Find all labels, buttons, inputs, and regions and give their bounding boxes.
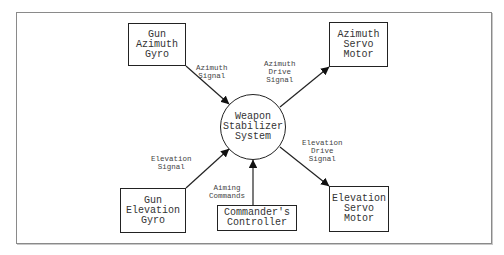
edge-label-line: Drive <box>302 147 343 155</box>
node-weapon-stabilizer-system: WeaponStabilizerSystem <box>220 94 286 160</box>
edge-label-line: Aiming <box>209 184 245 192</box>
node-azimuth-servo-motor: AzimuthServoMotor <box>329 22 388 67</box>
edge-label-line: Drive <box>264 68 296 76</box>
edge-label-azimuth-drive-signal: AzimuthDriveSignal <box>264 60 296 84</box>
edge-label-elevation-drive-signal: ElevationDriveSignal <box>302 139 343 163</box>
node-elevation-servo-motor: ElevationServoMotor <box>329 186 389 232</box>
node-label-line: Gun <box>144 196 162 206</box>
node-label-line: Elevation <box>126 206 180 216</box>
node-label-line: Gyro <box>145 50 169 60</box>
edge-label-line: Signal <box>264 76 296 84</box>
edge-label-line: Elevation <box>151 155 192 163</box>
node-commanders-controller: Commander'sController <box>217 205 297 231</box>
node-label-line: Gun <box>148 30 166 40</box>
edge-label-line: Azimuth <box>196 64 228 72</box>
diagram-canvas: GunAzimuthGyroAzimuthServoMotorGunElevat… <box>0 0 504 255</box>
center-label-line: System <box>235 132 271 142</box>
node-label-line: Motor <box>343 50 373 60</box>
edge-label-line: Signal <box>151 163 192 171</box>
edge-elevation-signal <box>186 149 229 188</box>
node-label-line: Servo <box>343 40 373 50</box>
edge-label-aiming-commands: AimingCommands <box>209 184 245 200</box>
node-label-line: Azimuth <box>337 30 379 40</box>
edge-label-elevation-signal: ElevationSignal <box>151 155 192 171</box>
node-gun-azimuth-gyro: GunAzimuthGyro <box>128 23 186 66</box>
edge-label-azimuth-signal: AzimuthSignal <box>196 64 228 80</box>
node-label-line: Azimuth <box>136 40 178 50</box>
edge-label-line: Signal <box>196 72 228 80</box>
node-label-line: Motor <box>344 214 374 224</box>
node-label-line: Gyro <box>141 216 165 226</box>
edge-label-line: Signal <box>302 155 343 163</box>
edge-label-line: Azimuth <box>264 60 296 68</box>
edge-label-line: Elevation <box>302 139 343 147</box>
node-label-line: Controller <box>227 218 287 228</box>
edge-label-line: Commands <box>209 192 245 200</box>
node-gun-elevation-gyro: GunElevationGyro <box>120 188 186 233</box>
